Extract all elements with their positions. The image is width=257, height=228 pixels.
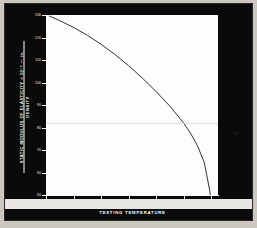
y-tick [42, 38, 46, 39]
y-tick-label: 120 [23, 36, 41, 40]
y-tick [42, 105, 46, 106]
y-tick [42, 173, 46, 174]
y-tick-label: 90 [23, 103, 41, 107]
y-tick-label: 130 [23, 13, 41, 17]
scan-bottom-bar [5, 214, 252, 220]
y-axis-title: STATIC MODULUS OF ELASTICITY × 10⁻⁶ — in… [17, 22, 31, 192]
y-axis-title-text: STATIC MODULUS OF ELASTICITY × 10⁻⁶ — in… [19, 51, 30, 164]
y-tick-label: 100 [23, 81, 41, 85]
x-axis-line [46, 195, 219, 196]
y-tick [42, 15, 46, 16]
y-tick [42, 83, 46, 84]
y-tick [42, 60, 46, 61]
scan-bottom-strip [5, 199, 252, 209]
plot-area [46, 15, 218, 195]
figure-panel: TESTING TEMPERATURE STATIC MODULUS OF EL… [5, 4, 252, 220]
y-tick-label: 50 [23, 193, 41, 197]
y-tick [42, 128, 46, 129]
y-axis-title-numerator: STATIC MODULUS OF ELASTICITY × 10⁻⁶ — in… [19, 51, 24, 164]
page-number-mark: 17 [234, 132, 239, 136]
y-tick-label: 110 [23, 58, 41, 62]
y-tick-label: 80 [23, 126, 41, 130]
figure-page: TESTING TEMPERATURE STATIC MODULUS OF EL… [0, 0, 257, 228]
scan-artifact-line [46, 123, 218, 124]
data-curve [46, 15, 218, 195]
y-axis-title-denominator: DENSITY [24, 51, 29, 164]
y-tick-label: 60 [23, 171, 41, 175]
y-tick [42, 150, 46, 151]
y-tick-label: 70 [23, 148, 41, 152]
y-axis-line [46, 15, 47, 196]
